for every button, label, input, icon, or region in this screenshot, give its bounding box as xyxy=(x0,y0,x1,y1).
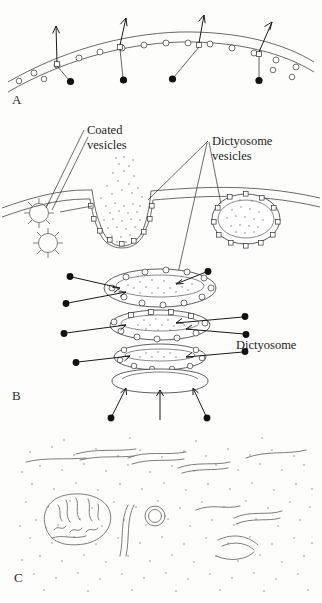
svg-text:Coated: Coated xyxy=(87,123,123,137)
svg-text:Dictyosome: Dictyosome xyxy=(236,338,297,352)
figure-panel-group: A xyxy=(0,0,322,603)
panel-letter-c: C xyxy=(14,570,23,585)
svg-text:vesicles: vesicles xyxy=(212,149,252,163)
label-dictyosome: Dictyosome xyxy=(236,338,297,352)
svg-text:Dictyosome: Dictyosome xyxy=(212,134,273,148)
panel-letter-b: B xyxy=(12,388,21,403)
svg-text:vesicles: vesicles xyxy=(87,138,127,152)
panel-letter-a: A xyxy=(12,92,22,107)
